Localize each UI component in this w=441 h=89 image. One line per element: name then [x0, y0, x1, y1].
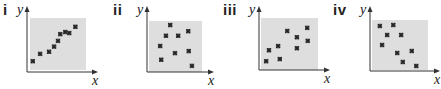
data-point-marker-icon: [306, 39, 310, 43]
data-point-marker-icon: [67, 31, 71, 35]
data-point-marker-icon: [158, 44, 162, 48]
plot-area: [30, 18, 86, 70]
data-point-marker-icon: [399, 33, 403, 37]
data-point-marker-icon: [31, 59, 35, 63]
y-axis-label: y: [135, 2, 144, 17]
data-point-marker-icon: [401, 60, 405, 64]
data-point-marker-icon: [63, 30, 67, 34]
data-point-marker-icon: [295, 35, 299, 39]
y-axis-arrow-icon: [25, 6, 30, 12]
scatter-panel-i: iyx: [0, 0, 110, 89]
data-point-marker-icon: [391, 23, 395, 27]
data-point-marker-icon: [38, 52, 42, 56]
scatter-plot: yx: [220, 0, 330, 89]
data-point-marker-icon: [278, 57, 282, 61]
data-point-marker-icon: [186, 29, 190, 33]
data-point-marker-icon: [378, 24, 382, 28]
data-point-marker-icon: [52, 44, 56, 48]
y-axis-arrow-icon: [368, 6, 373, 12]
y-axis-label: y: [15, 2, 24, 17]
y-axis-arrow-icon: [257, 6, 262, 12]
data-point-marker-icon: [276, 44, 280, 48]
x-axis-label: x: [433, 72, 441, 87]
data-point-marker-icon: [190, 64, 194, 68]
data-point-marker-icon: [410, 49, 414, 53]
data-point-marker-icon: [267, 48, 271, 52]
data-point-marker-icon: [164, 34, 168, 38]
scatter-plot: yx: [0, 0, 110, 89]
data-point-marker-icon: [159, 58, 163, 62]
data-point-marker-icon: [168, 23, 172, 27]
scatter-plot: yx: [330, 0, 440, 89]
scatter-panel-ii: iiyx: [110, 0, 220, 89]
data-point-marker-icon: [56, 39, 60, 43]
data-point-marker-icon: [176, 34, 180, 38]
scatter-panel-iii: iiiyx: [220, 0, 330, 89]
data-point-marker-icon: [305, 26, 309, 30]
y-axis-arrow-icon: [145, 6, 150, 12]
data-point-marker-icon: [395, 51, 399, 55]
data-point-marker-icon: [47, 50, 51, 54]
scatter-panel-iv: ivyx: [330, 0, 440, 89]
plot-area: [261, 18, 318, 70]
y-axis-label: y: [358, 2, 367, 17]
data-point-marker-icon: [385, 33, 389, 37]
data-point-marker-icon: [380, 43, 384, 47]
y-axis-label: y: [247, 2, 256, 17]
data-point-marker-icon: [187, 49, 191, 53]
data-point-marker-icon: [58, 32, 62, 36]
data-point-marker-icon: [285, 29, 289, 33]
x-axis-label: x: [91, 73, 99, 88]
data-point-marker-icon: [414, 64, 418, 68]
data-point-marker-icon: [264, 59, 268, 63]
x-axis-label: x: [207, 73, 215, 88]
data-point-marker-icon: [173, 51, 177, 55]
data-point-marker-icon: [295, 46, 299, 50]
data-point-marker-icon: [73, 25, 77, 29]
scatter-plot: yx: [110, 0, 220, 89]
